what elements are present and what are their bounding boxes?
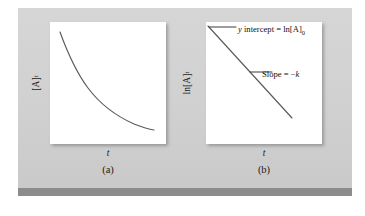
plot-a-caption: (a): [50, 164, 166, 175]
slope-annotation-prefix: Slope = −: [262, 69, 296, 79]
plot-b: y intercept = ln[A]0 Slope = −k ln[A]t t…: [178, 14, 328, 186]
plot-a-box: [50, 22, 166, 144]
plot-a-y-axis-label-main: [A]: [31, 77, 41, 91]
plot-a-x-axis-label: t: [50, 148, 166, 158]
y-intercept-annotation-text: intercept = ln[A]: [242, 24, 302, 34]
plot-a-curve-svg: [50, 22, 166, 144]
plot-a-y-axis-label: [A]t: [28, 22, 44, 144]
plot-b-caption: (b): [206, 164, 322, 175]
y-intercept-annotation-subscript: 0: [302, 29, 305, 36]
exponential-decay-curve: [60, 32, 154, 130]
plot-b-line-svg: [206, 22, 322, 144]
slope-annotation: Slope = −k: [262, 70, 299, 79]
plot-b-y-axis-label: ln[A]t: [179, 22, 195, 144]
plot-b-y-axis-label-main: ln[A]: [182, 73, 192, 94]
y-intercept-annotation: y intercept = ln[A]0: [238, 25, 305, 34]
plot-b-box: y intercept = ln[A]0 Slope = −k: [206, 22, 322, 144]
plot-a: [A]t t (a): [22, 14, 172, 186]
figure-footer-rule: [18, 188, 352, 196]
plot-b-x-axis-label: t: [206, 148, 322, 158]
figure-container: [A]t t (a) y intercept = ln[A]0 Slope = …: [0, 0, 365, 216]
slope-annotation-text: k: [296, 69, 300, 79]
